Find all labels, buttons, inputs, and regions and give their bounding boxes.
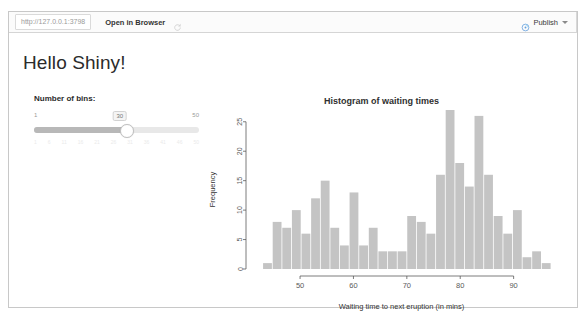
x-axis-tick-label: 90	[509, 281, 517, 290]
y-axis-tick-label: 25	[237, 118, 244, 126]
slider-tick: 36	[144, 139, 150, 145]
x-axis-tick-label: 80	[456, 281, 464, 290]
publish-label: Publish	[533, 18, 558, 27]
histogram-bar	[475, 116, 484, 269]
histogram-bar	[465, 187, 474, 269]
slider-tick: 6	[48, 139, 51, 145]
x-axis-tick-label: 50	[296, 281, 304, 290]
histogram-bar	[273, 222, 282, 269]
plot-title: Histogram of waiting times	[204, 96, 559, 106]
histogram-bar	[542, 263, 551, 269]
histogram-bar	[532, 251, 541, 269]
slider-handle[interactable]	[120, 124, 134, 138]
histogram-bar	[369, 228, 378, 269]
histogram-bar	[302, 234, 311, 269]
histogram-bar	[311, 198, 320, 269]
shiny-app-body: Hello Shiny! Number of bins: 1 50 30 1 6…	[9, 34, 577, 307]
histogram-bar	[321, 181, 330, 269]
screenshot-root: http://127.0.0.1:3798 Open in Browser	[0, 0, 588, 321]
histogram-bar	[494, 216, 503, 269]
histogram-bar	[388, 251, 397, 269]
histogram-bar	[359, 245, 368, 269]
x-axis-title: Waiting time to next eruption (in mins)	[339, 302, 465, 311]
slider-tick: 41	[160, 139, 166, 145]
histogram-bar	[446, 110, 455, 269]
histogram-plot: Histogram of waiting times 0510152025Fre…	[204, 82, 559, 317]
histogram-bar	[398, 251, 407, 269]
y-axis-tick-label: 10	[237, 206, 244, 214]
y-axis-title: Frequency	[208, 172, 217, 208]
chevron-down-icon[interactable]	[562, 21, 568, 24]
slider-fill	[34, 127, 126, 133]
histogram-bar	[503, 234, 512, 269]
histogram-bar	[513, 210, 522, 269]
bins-slider[interactable]: 1 50 30 1 6 11 16 21 26 31	[34, 112, 199, 156]
slider-min-label: 1	[34, 112, 37, 118]
histogram-bar	[292, 210, 301, 269]
y-axis-tick-label: 20	[237, 147, 244, 155]
toolbar-divider	[576, 12, 577, 33]
histogram-bar	[330, 228, 339, 269]
slider-tick: 16	[78, 139, 84, 145]
histogram-bar	[407, 216, 416, 269]
sidebar-panel: Number of bins: 1 50 30 1 6 11 16 21	[34, 94, 199, 156]
slider-tick: 1	[34, 139, 37, 145]
slider-label: Number of bins:	[34, 94, 199, 103]
publish-button[interactable]: Publish	[521, 18, 568, 27]
histogram-bar	[455, 163, 464, 269]
url-input[interactable]: http://127.0.0.1:3798	[15, 14, 91, 30]
histogram-bar	[417, 222, 426, 269]
slider-value-badge: 30	[112, 111, 127, 121]
slider-max-label: 50	[192, 112, 199, 118]
histogram-bar	[378, 251, 387, 269]
slider-tick: 21	[94, 139, 100, 145]
slider-track[interactable]	[34, 127, 199, 133]
publish-icon	[521, 18, 530, 27]
slider-tick: 50	[193, 139, 199, 145]
slider-tick: 31	[127, 139, 133, 145]
histogram-bar	[350, 192, 359, 269]
open-in-browser-button[interactable]: Open in Browser	[105, 18, 165, 27]
histogram-bar	[484, 175, 493, 269]
x-axis-tick-label: 60	[349, 281, 357, 290]
histogram-canvas: 0510152025Frequency5060708090Waiting tim…	[204, 82, 559, 317]
histogram-bar	[436, 175, 445, 269]
slider-tick: 26	[111, 139, 117, 145]
refresh-icon[interactable]	[173, 18, 182, 27]
histogram-bar	[340, 245, 349, 269]
histogram-bar	[282, 228, 291, 269]
histogram-bar	[426, 234, 435, 269]
x-axis-tick-label: 70	[403, 281, 411, 290]
shiny-app-window: http://127.0.0.1:3798 Open in Browser	[8, 11, 578, 308]
slider-tick: 46	[177, 139, 183, 145]
y-axis-tick-label: 5	[237, 238, 244, 242]
histogram-bar	[523, 257, 532, 269]
slider-tick: 11	[62, 139, 67, 145]
slider-tick-labels: 1 6 11 16 21 26 31 36 41 46 50	[34, 139, 199, 145]
page-title: Hello Shiny!	[23, 52, 126, 74]
histogram-bar	[263, 263, 272, 269]
y-axis-tick-label: 15	[237, 177, 244, 185]
app-viewer-toolbar: http://127.0.0.1:3798 Open in Browser	[9, 12, 577, 33]
y-axis-tick-label: 0	[237, 267, 244, 271]
